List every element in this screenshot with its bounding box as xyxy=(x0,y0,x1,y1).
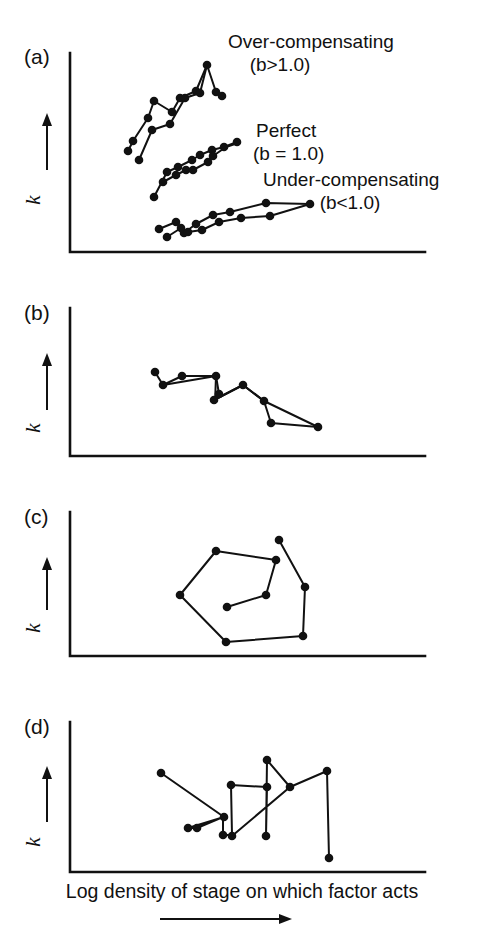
data-point xyxy=(262,832,271,841)
panel-c-line-1 xyxy=(180,540,305,642)
panel-d: (d) k xyxy=(21,715,425,872)
data-point xyxy=(275,536,284,545)
data-point xyxy=(151,368,160,377)
data-point xyxy=(272,556,281,565)
panel-a-y-axis-arrow xyxy=(42,113,52,170)
data-point xyxy=(301,583,310,592)
data-point xyxy=(196,89,205,98)
panel-d-k-label: k xyxy=(21,837,45,847)
data-point xyxy=(184,824,193,833)
panel-a-axes xyxy=(70,53,425,252)
data-point xyxy=(176,591,185,600)
data-point xyxy=(218,92,227,101)
panel-b-series xyxy=(151,368,323,432)
annotation-under-compensating-line2: (b<1.0) xyxy=(320,192,381,213)
panel-c-axes xyxy=(70,512,425,656)
panel-a-series-perfect xyxy=(150,138,242,202)
panel-c: (c) k xyxy=(21,505,425,656)
annotation-under-compensating-line1: Under-compensating xyxy=(263,169,439,190)
data-point xyxy=(189,166,198,175)
panel-d-y-axis-arrow xyxy=(42,766,52,822)
data-point xyxy=(124,147,133,156)
panel-a-line-2 xyxy=(139,65,222,160)
data-point xyxy=(166,120,175,129)
panel-b: (b) k xyxy=(21,301,425,456)
data-point xyxy=(178,372,187,381)
data-point xyxy=(286,783,295,792)
data-point xyxy=(314,423,323,432)
data-point xyxy=(129,137,138,146)
panel-b-line-1 xyxy=(155,372,318,427)
data-point xyxy=(163,168,172,177)
data-point xyxy=(159,381,168,390)
panel-d-label: (d) xyxy=(24,715,50,738)
data-point xyxy=(262,591,271,600)
data-point xyxy=(237,214,246,223)
data-point xyxy=(210,396,219,405)
data-point xyxy=(223,603,232,612)
data-point xyxy=(239,381,248,390)
data-point xyxy=(228,832,237,841)
data-point xyxy=(233,138,242,147)
annotation-over-compensating-line1: Over-compensating xyxy=(228,31,394,52)
data-point xyxy=(196,151,205,160)
panel-d-axes xyxy=(70,722,425,872)
data-point xyxy=(306,200,315,209)
data-point xyxy=(163,233,172,242)
data-point xyxy=(135,156,144,165)
data-point xyxy=(203,61,212,70)
data-point xyxy=(193,824,202,833)
data-point xyxy=(263,783,272,792)
panel-d-series xyxy=(157,756,334,863)
data-point xyxy=(262,199,271,208)
panel-a-label: (a) xyxy=(24,45,50,68)
data-point xyxy=(209,211,218,220)
panel-c-series xyxy=(176,536,310,647)
data-point xyxy=(150,97,159,106)
caption-label: Log density of stage on which factor act… xyxy=(66,880,419,902)
data-point xyxy=(188,156,197,165)
panel-d-line-1 xyxy=(161,760,329,858)
panel-b-axes xyxy=(70,308,425,456)
data-point xyxy=(263,756,272,765)
panel-a: (a) k xyxy=(21,31,439,252)
data-point xyxy=(226,208,235,217)
data-point xyxy=(172,171,181,180)
data-point xyxy=(215,218,224,227)
data-point xyxy=(150,193,159,202)
panel-a-k-label: k xyxy=(21,195,45,205)
data-point xyxy=(181,94,190,103)
caption-right-arrow-icon xyxy=(160,914,292,924)
figure-root: (a) k xyxy=(0,0,485,944)
data-point xyxy=(148,126,157,135)
annotation-perfect-line2: (b = 1.0) xyxy=(253,143,324,164)
panel-c-y-axis-arrow xyxy=(42,557,52,610)
data-point xyxy=(209,152,218,161)
data-point xyxy=(219,831,228,840)
data-point xyxy=(212,547,221,556)
data-point xyxy=(212,372,221,381)
data-point xyxy=(184,228,193,237)
data-point xyxy=(220,813,229,822)
panel-a-line-1 xyxy=(128,65,207,151)
figure-canvas: (a) k xyxy=(0,0,485,944)
annotation-over-compensating-line2: (b>1.0) xyxy=(250,54,311,75)
data-point xyxy=(168,108,177,117)
panel-b-k-label: k xyxy=(21,423,45,433)
data-point xyxy=(227,781,236,790)
annotation-perfect-line1: Perfect xyxy=(256,120,317,141)
data-point xyxy=(144,114,153,123)
panel-c-k-label: k xyxy=(21,623,45,633)
data-point xyxy=(325,854,334,863)
data-point xyxy=(323,767,332,776)
data-point xyxy=(260,397,269,406)
panel-b-label: (b) xyxy=(24,301,50,324)
data-point xyxy=(220,143,229,152)
panel-c-label: (c) xyxy=(24,505,49,528)
data-point xyxy=(266,212,275,221)
data-point xyxy=(222,638,231,647)
figure-caption: Log density of stage on which factor act… xyxy=(66,880,419,924)
data-point xyxy=(155,225,164,234)
panel-a-series-under xyxy=(155,199,315,242)
data-point xyxy=(267,419,276,428)
